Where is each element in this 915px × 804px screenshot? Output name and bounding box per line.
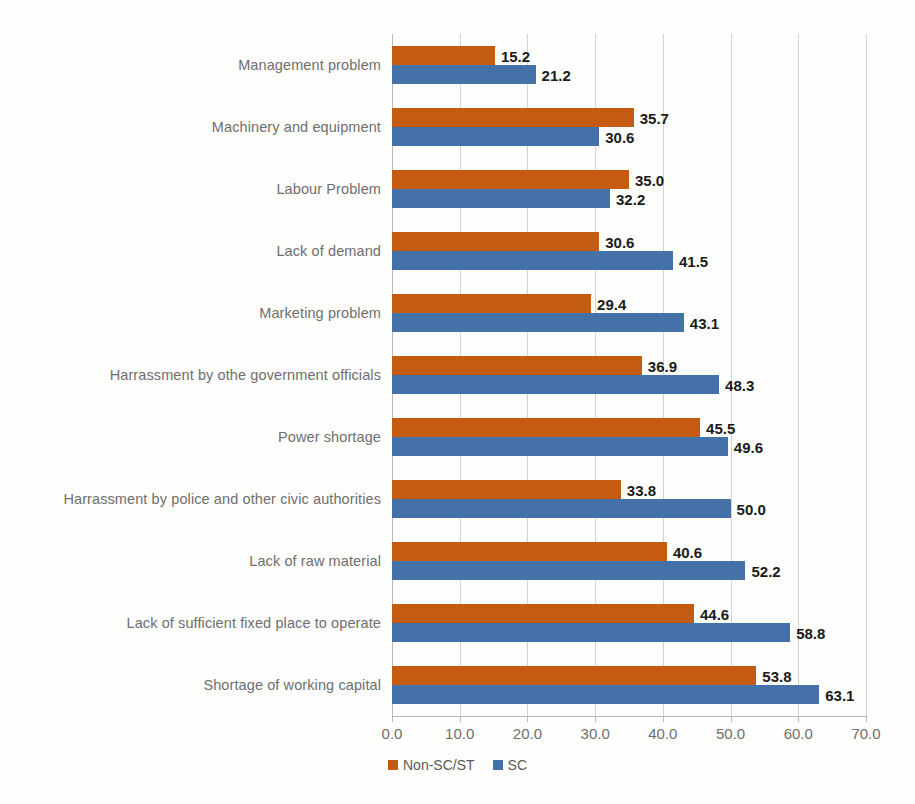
- bar-sc: 49.6: [392, 437, 728, 456]
- bar-sc: 43.1: [392, 313, 684, 332]
- bar-non-sc-st: 15.2: [392, 46, 495, 65]
- bar-non-sc-st: 35.7: [392, 108, 634, 127]
- chart-legend: Non-SC/STSC: [0, 757, 915, 773]
- bar-non-sc-st: 53.8: [392, 666, 756, 685]
- bar-sc: 30.6: [392, 127, 599, 146]
- bar-value-label: 30.6: [605, 128, 634, 145]
- bar-sc: 52.2: [392, 561, 745, 580]
- legend-swatch-icon: [388, 760, 398, 770]
- category-label: Machinery and equipment: [212, 119, 381, 135]
- chart-row: Harrassment by police and other civic au…: [392, 480, 866, 518]
- bar-value-label: 48.3: [725, 376, 754, 393]
- bar-value-label: 35.0: [635, 171, 664, 188]
- bar-value-label: 21.2: [542, 66, 571, 83]
- bar-non-sc-st: 45.5: [392, 418, 700, 437]
- category-label: Lack of sufficient fixed place to operat…: [126, 615, 381, 631]
- bar-value-label: 33.8: [627, 481, 656, 498]
- bar-non-sc-st: 33.8: [392, 480, 621, 499]
- x-axis-tickmark: [392, 716, 393, 722]
- x-axis-tickmark: [866, 716, 867, 722]
- bar-sc: 21.2: [392, 65, 536, 84]
- x-axis-tick-label: 70.0: [851, 725, 880, 742]
- chart-row: Lack of demand30.641.5: [392, 232, 866, 270]
- category-label: Power shortage: [278, 429, 381, 445]
- category-label: Marketing problem: [259, 305, 381, 321]
- category-label: Lack of demand: [276, 243, 381, 259]
- bar-sc: 32.2: [392, 189, 610, 208]
- chart-row: Lack of sufficient fixed place to operat…: [392, 604, 866, 642]
- bar-value-label: 29.4: [597, 295, 626, 312]
- bar-value-label: 58.8: [796, 624, 825, 641]
- bar-value-label: 32.2: [616, 190, 645, 207]
- bar-value-label: 45.5: [706, 419, 735, 436]
- bar-value-label: 41.5: [679, 252, 708, 269]
- chart-row: Machinery and equipment35.730.6: [392, 108, 866, 146]
- bar-value-label: 43.1: [690, 314, 719, 331]
- bar-non-sc-st: 30.6: [392, 232, 599, 251]
- x-axis-tick-label: 30.0: [581, 725, 610, 742]
- x-axis-tickmark: [731, 716, 732, 722]
- bar-sc: 63.1: [392, 685, 819, 704]
- category-label: Management problem: [238, 57, 381, 73]
- chart-row: Management problem15.221.2: [392, 46, 866, 84]
- bar-value-label: 53.8: [762, 667, 791, 684]
- bar-non-sc-st: 29.4: [392, 294, 591, 313]
- chart-row: Marketing problem29.443.1: [392, 294, 866, 332]
- gridline: [866, 34, 867, 716]
- bar-chart: Management problem15.221.2Machinery and …: [0, 0, 915, 804]
- bar-value-label: 44.6: [700, 605, 729, 622]
- bar-value-label: 49.6: [734, 438, 763, 455]
- bar-sc: 58.8: [392, 623, 790, 642]
- bar-value-label: 63.1: [825, 686, 854, 703]
- plot-area: Management problem15.221.2Machinery and …: [392, 34, 866, 716]
- bar-non-sc-st: 40.6: [392, 542, 667, 561]
- category-label: Harrassment by police and other civic au…: [63, 491, 381, 507]
- legend-item-non-sc-st[interactable]: Non-SC/ST: [388, 757, 475, 773]
- bar-sc: 50.0: [392, 499, 731, 518]
- x-axis-tickmark: [663, 716, 664, 722]
- x-axis-tick-label: 40.0: [648, 725, 677, 742]
- x-axis-line: [392, 716, 866, 717]
- legend-label: Non-SC/ST: [403, 757, 475, 773]
- x-axis-tickmark: [460, 716, 461, 722]
- legend-swatch-icon: [493, 760, 503, 770]
- bar-sc: 41.5: [392, 251, 673, 270]
- bar-value-label: 40.6: [673, 543, 702, 560]
- bar-non-sc-st: 36.9: [392, 356, 642, 375]
- x-axis-tick-label: 10.0: [445, 725, 474, 742]
- category-label: Labour Problem: [276, 181, 381, 197]
- bar-value-label: 30.6: [605, 233, 634, 250]
- x-axis-tickmark: [527, 716, 528, 722]
- x-axis-tickmark: [798, 716, 799, 722]
- category-label: Lack of raw material: [249, 553, 381, 569]
- chart-row: Lack of raw material40.652.2: [392, 542, 866, 580]
- legend-item-sc[interactable]: SC: [493, 757, 527, 773]
- bar-value-label: 15.2: [501, 47, 530, 64]
- bar-value-label: 52.2: [751, 562, 780, 579]
- legend-label: SC: [508, 757, 527, 773]
- x-axis-tick-label: 0.0: [382, 725, 403, 742]
- x-axis-tickmark: [595, 716, 596, 722]
- x-axis-tick-label: 60.0: [784, 725, 813, 742]
- x-axis-tick-label: 50.0: [716, 725, 745, 742]
- bar-value-label: 50.0: [737, 500, 766, 517]
- category-label: Shortage of working capital: [203, 677, 381, 693]
- bar-non-sc-st: 44.6: [392, 604, 694, 623]
- bar-value-label: 35.7: [640, 109, 669, 126]
- chart-row: Power shortage45.549.6: [392, 418, 866, 456]
- category-label: Harrassment by othe government officials: [110, 367, 381, 383]
- chart-row: Harrassment by othe government officials…: [392, 356, 866, 394]
- x-axis-tick-label: 20.0: [513, 725, 542, 742]
- bar-sc: 48.3: [392, 375, 719, 394]
- bar-value-label: 36.9: [648, 357, 677, 374]
- chart-row: Shortage of working capital53.863.1: [392, 666, 866, 704]
- bar-non-sc-st: 35.0: [392, 170, 629, 189]
- chart-row: Labour Problem35.032.2: [392, 170, 866, 208]
